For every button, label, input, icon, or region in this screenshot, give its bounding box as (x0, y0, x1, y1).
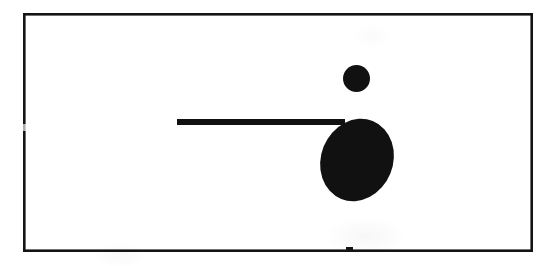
image-canvas: Abstract figure line drawing Black silho… (0, 0, 552, 266)
border-left-edge-upper (23, 13, 26, 124)
border-top-edge (23, 13, 533, 16)
border-right-edge (530, 13, 533, 252)
head-dot (343, 65, 370, 92)
page-background (0, 0, 552, 266)
figure-artwork (0, 0, 552, 266)
border-left-edge-lower (23, 131, 26, 252)
horizontal-bar (177, 119, 345, 125)
bottom-edge-tick (346, 247, 353, 251)
border-left-edge-faint-segment (23, 124, 26, 131)
border-bottom-edge (23, 249, 533, 252)
